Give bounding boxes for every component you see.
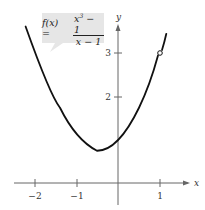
y-tick-label-3: 3 (105, 48, 111, 58)
y-axis-arrow-icon (116, 24, 121, 31)
fraction-numerator: x3 − 1 (73, 10, 104, 36)
x-axis-label: x (194, 178, 199, 188)
open-circle-hole (158, 51, 163, 56)
label-pointer (50, 43, 63, 52)
y-axis-label: y (115, 12, 122, 22)
x-tick-label-neg2: −2 (28, 191, 41, 201)
fraction-denominator: x − 1 (76, 36, 101, 47)
x-tick-label-1: 1 (157, 191, 163, 201)
x-tick-label-neg1: −1 (70, 191, 83, 201)
function-label: f(x) = x3 − 1 x − 1 (42, 13, 104, 43)
x-axis-arrow-icon (183, 181, 190, 186)
y-tick-label-2: 2 (105, 92, 111, 102)
function-label-lhs: f(x) = (42, 17, 69, 39)
function-curve-right (162, 34, 166, 50)
fraction: x3 − 1 x − 1 (73, 10, 104, 47)
